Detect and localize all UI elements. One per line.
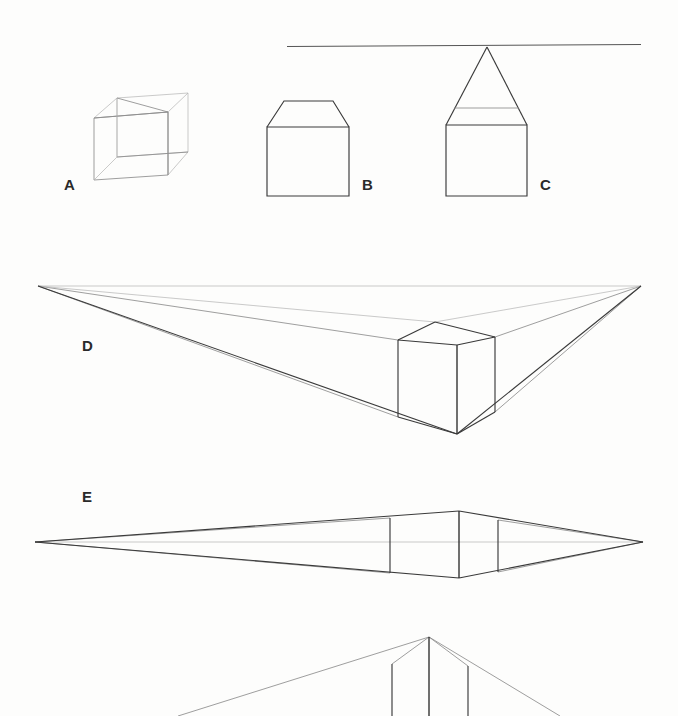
figure-label-d: D — [82, 338, 93, 353]
figure-label-e: E — [82, 489, 92, 504]
figure-label-c: C — [540, 177, 551, 192]
figure-e-perspective-cube-at-horizon — [35, 511, 643, 578]
figure-c-square-with-convergence — [446, 47, 527, 196]
figure-canvas — [0, 0, 678, 716]
figure-b-square-with-top-plane — [267, 101, 349, 196]
figure-a-wireframe-cube — [94, 93, 188, 180]
figure-d-perspective-cube-below-horizon — [38, 286, 641, 434]
figure-f-perspective-cube-above-horizon — [178, 637, 560, 716]
figure-label-b: B — [362, 177, 373, 192]
drawing-page: A B C D E — [0, 0, 678, 716]
horizon-line-top — [287, 45, 641, 47]
figure-label-a: A — [64, 177, 75, 192]
